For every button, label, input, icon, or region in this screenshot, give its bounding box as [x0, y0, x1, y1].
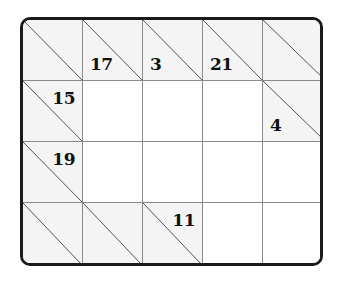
entry-cell[interactable] [203, 203, 263, 266]
clue-cell [23, 20, 83, 81]
clue-cell: 17 [83, 20, 143, 81]
diagonal-divider-icon [263, 20, 323, 80]
entry-cell[interactable] [83, 142, 143, 203]
entry-cell[interactable] [143, 81, 203, 142]
clue-cell: 3 [143, 20, 203, 81]
entry-cell[interactable] [263, 142, 323, 203]
entry-cell[interactable] [263, 203, 323, 266]
puzzle-grid: 173211541911 [23, 20, 320, 263]
diagonal-divider-icon [83, 203, 142, 265]
entry-cell[interactable] [83, 81, 143, 142]
clue-cell: 11 [143, 203, 203, 266]
across-clue-number: 11 [172, 210, 195, 230]
kakuro-board: 173211541911 [20, 17, 323, 266]
clue-cell: 19 [23, 142, 83, 203]
diagonal-divider-icon [23, 203, 82, 265]
across-clue-number: 19 [52, 149, 75, 169]
down-clue-number: 17 [90, 54, 113, 74]
clue-cell: 21 [203, 20, 263, 81]
clue-cell [23, 203, 83, 266]
across-clue-number: 15 [52, 88, 75, 108]
clue-cell [83, 203, 143, 266]
down-clue-number: 4 [270, 115, 281, 135]
entry-cell[interactable] [203, 81, 263, 142]
clue-cell: 15 [23, 81, 83, 142]
down-clue-number: 3 [150, 54, 161, 74]
entry-cell[interactable] [143, 142, 203, 203]
entry-cell[interactable] [203, 142, 263, 203]
clue-cell [263, 20, 323, 81]
down-clue-number: 21 [210, 54, 233, 74]
clue-cell: 4 [263, 81, 323, 142]
diagonal-divider-icon [23, 20, 82, 80]
